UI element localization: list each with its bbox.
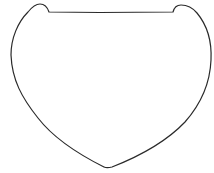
background (0, 0, 214, 173)
shield-outline-drawing (0, 0, 214, 173)
